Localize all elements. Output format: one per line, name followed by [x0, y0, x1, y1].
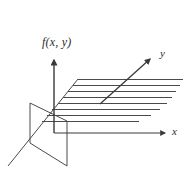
figure-root: f(x, y) y x — [0, 0, 186, 175]
surface-rulings-group — [42, 79, 183, 121]
panel-top-edge — [30, 103, 67, 121]
panel-bottom-edge — [30, 143, 67, 166]
depth-axis-label: y — [160, 48, 165, 59]
diagram-canvas — [0, 0, 186, 175]
panel-group — [30, 103, 67, 166]
vertical-axis-label: f(x, y) — [42, 36, 71, 48]
horizontal-axis-label: x — [172, 126, 177, 137]
